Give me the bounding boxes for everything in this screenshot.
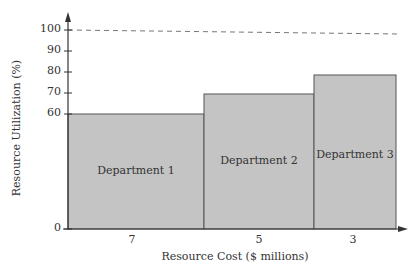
bar-label-department-2: Department 2: [204, 154, 314, 167]
y-tick-90: 90: [31, 43, 61, 56]
bar-label-department-3: Department 3: [314, 148, 396, 161]
y-tick-60: 60: [31, 106, 61, 119]
y-tick-70: 70: [31, 85, 61, 98]
reference-line-100: [68, 30, 398, 34]
y-tick-80: 80: [31, 64, 61, 77]
x-axis-label: Resource Cost ($ millions): [0, 250, 420, 263]
y-axis-label-text: Resource Utilization (%): [10, 60, 23, 196]
x-tick-3: 3: [338, 233, 368, 246]
x-tick-7: 7: [117, 233, 147, 246]
y-tick-100: 100: [31, 22, 61, 35]
x-axis-arrow-icon: [398, 226, 408, 232]
y-axis-arrow-icon: [65, 12, 71, 22]
y-tick-0: 0: [31, 221, 61, 234]
bar-label-department-1: Department 1: [68, 164, 204, 177]
x-tick-5: 5: [244, 233, 274, 246]
